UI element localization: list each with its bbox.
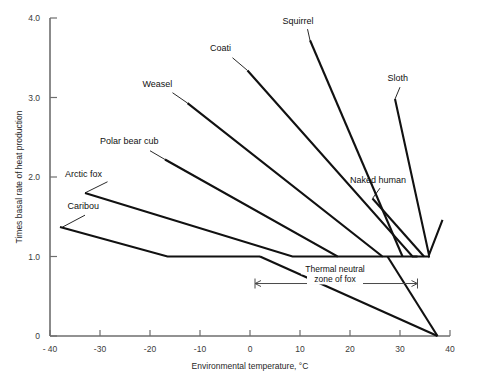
leader-line: [63, 215, 86, 227]
series-label-coati: Coati: [210, 43, 231, 53]
y-axis-title: Times basal rate of heat production: [14, 110, 24, 243]
x-tick-label: - 40: [43, 344, 58, 354]
tnz-text-line2: zone of fox: [314, 274, 356, 284]
leader-line: [85, 182, 108, 193]
leader-line: [308, 29, 311, 40]
series-label-arctic-fox: Arctic fox: [65, 169, 103, 179]
y-tick-label: 2.0: [28, 172, 40, 182]
series-label-sloth: Sloth: [388, 73, 409, 83]
x-tick-label: 40: [445, 344, 455, 354]
x-tick-label: -10: [194, 344, 207, 354]
leader-line: [395, 87, 400, 99]
metabolic-rate-chart: 01.02.03.04.0- 40-30-20-10010203040Envir…: [0, 0, 477, 377]
y-tick-label: 3.0: [28, 93, 40, 103]
x-tick-label: -30: [94, 344, 107, 354]
x-tick-label: 0: [248, 344, 253, 354]
series-label-squirrel: Squirrel: [283, 16, 314, 26]
series-line-coati: [248, 70, 431, 256]
series-label-weasel: Weasel: [143, 79, 173, 89]
tnz-text-line1: Thermal neutral: [305, 264, 365, 274]
series-line-arctic-fox: [85, 193, 338, 257]
leader-line: [150, 151, 165, 160]
series-label-naked-human: Naked human: [350, 175, 406, 185]
x-axis-title: Environmental temperature, °C: [192, 361, 309, 371]
leader-line: [173, 93, 188, 103]
x-tick-label: 20: [345, 344, 355, 354]
y-tick-label: 1.0: [28, 252, 40, 262]
leader-line: [233, 58, 248, 71]
series-line-caribou: [60, 227, 260, 256]
series-label-polar-bear-cub: Polar bear cub: [100, 136, 159, 146]
series-label-caribou: Caribou: [68, 201, 100, 211]
x-tick-label: 30: [395, 344, 405, 354]
y-tick-label: 0: [35, 331, 40, 341]
y-tick-label: 4.0: [28, 13, 40, 23]
figure-container: 01.02.03.04.0- 40-30-20-10010203040Envir…: [0, 0, 477, 377]
x-tick-label: -20: [144, 344, 157, 354]
x-tick-label: 10: [295, 344, 305, 354]
